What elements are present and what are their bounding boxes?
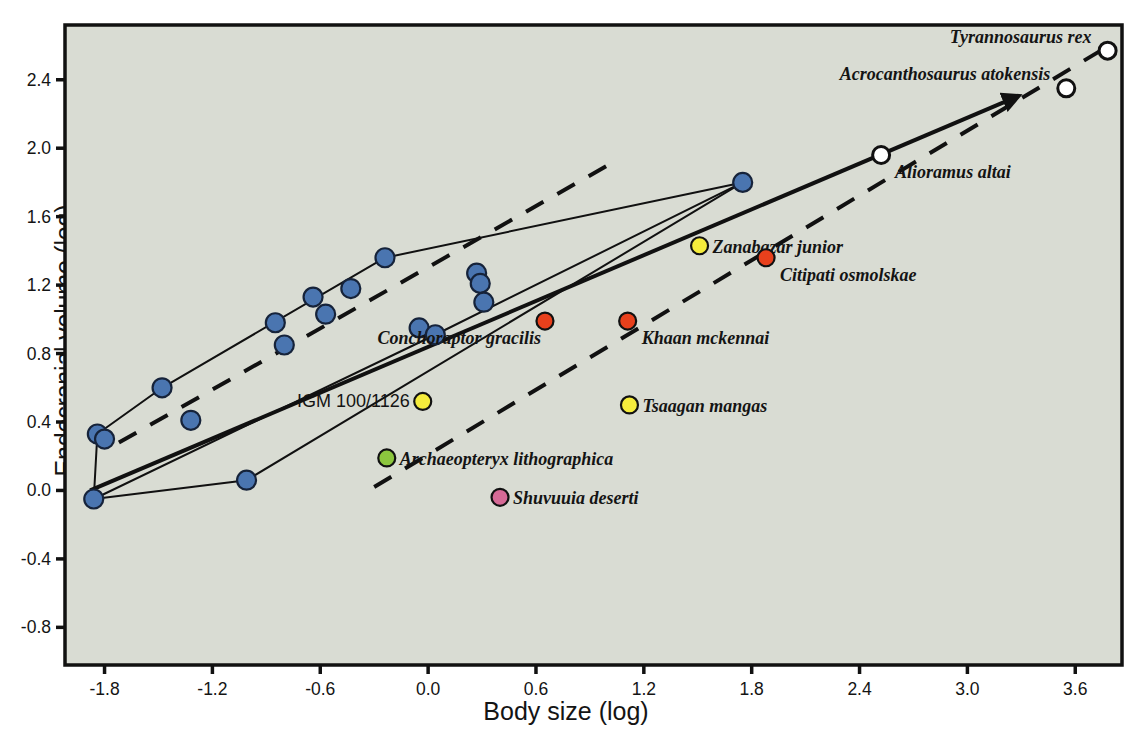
x-axis-tick-label: -1.8 [89, 679, 119, 699]
data-point-labeled[interactable] [1099, 42, 1116, 59]
y-axis-tick-label: 1.6 [27, 207, 51, 227]
x-axis-tick-label: 2.4 [847, 679, 872, 699]
data-point[interactable] [375, 248, 394, 267]
data-point[interactable] [84, 490, 103, 509]
data-point[interactable] [304, 288, 323, 307]
data-point-labeled[interactable] [536, 313, 553, 330]
y-axis-tick-label: 0.4 [27, 412, 52, 432]
data-point-labeled[interactable] [691, 237, 708, 254]
y-axis-tick-label: -0.4 [21, 549, 51, 569]
data-point[interactable] [733, 173, 752, 192]
data-point-label: Shuvuuia deserti [513, 488, 639, 508]
y-axis-tick-label: 1.2 [27, 275, 51, 295]
data-point-labeled[interactable] [1058, 80, 1075, 97]
y-axis-tick-label: -0.8 [21, 617, 51, 637]
x-axis-tick-label: -0.6 [305, 679, 335, 699]
data-point[interactable] [181, 411, 200, 430]
data-point-label: Archaeopteryx lithographica [399, 449, 614, 469]
data-point-label: Zanabazar junior [712, 237, 845, 257]
x-axis-tick-label: 0.6 [524, 679, 548, 699]
y-axis-tick-label: 2.0 [27, 138, 52, 158]
data-point-labeled[interactable] [414, 393, 431, 410]
x-axis-tick-label: 3.0 [955, 679, 980, 699]
data-point-label: Citipati osmolskae [780, 265, 917, 285]
data-point-labeled[interactable] [492, 489, 509, 506]
data-point-label: Alioramus altai [894, 162, 1011, 182]
data-point-label: Khaan mckennai [641, 328, 770, 348]
data-point-labeled[interactable] [619, 313, 636, 330]
data-point[interactable] [153, 378, 172, 397]
y-axis-tick-label: 0.0 [27, 480, 52, 500]
data-point[interactable] [266, 313, 285, 332]
data-point[interactable] [471, 274, 490, 293]
x-axis-tick-label: 1.2 [632, 679, 656, 699]
data-point[interactable] [341, 279, 360, 298]
data-point[interactable] [95, 430, 114, 449]
data-point-labeled[interactable] [873, 147, 890, 164]
data-point[interactable] [275, 336, 294, 355]
data-point-label: Conchoraptor gracilis [377, 328, 541, 348]
data-point-label: Acrocanthosaurus atokensis [839, 64, 1051, 84]
x-axis-tick-label: 0.0 [416, 679, 441, 699]
data-point-labeled[interactable] [378, 449, 395, 466]
data-point-labeled[interactable] [758, 249, 775, 266]
x-axis-tick-label: 1.8 [740, 679, 764, 699]
data-point-labeled[interactable] [621, 396, 638, 413]
data-point-label: Tsaagan mangas [642, 396, 767, 416]
data-point[interactable] [316, 305, 335, 324]
scatter-plot: -1.8-1.2-0.60.00.61.21.82.43.03.62.42.01… [0, 0, 1132, 743]
data-point[interactable] [474, 293, 493, 312]
figure-root: Endocranial volume (log) Body size (log)… [0, 0, 1132, 743]
x-axis-tick-label: 3.6 [1063, 679, 1087, 699]
data-point-label: Tyrannosaurus rex [950, 27, 1092, 47]
data-point-label: IGM 100/1126 [297, 391, 410, 411]
y-axis-tick-label: 0.8 [27, 344, 51, 364]
x-axis-tick-label: -1.2 [197, 679, 227, 699]
y-axis-tick-label: 2.4 [27, 70, 52, 90]
data-point[interactable] [237, 471, 256, 490]
